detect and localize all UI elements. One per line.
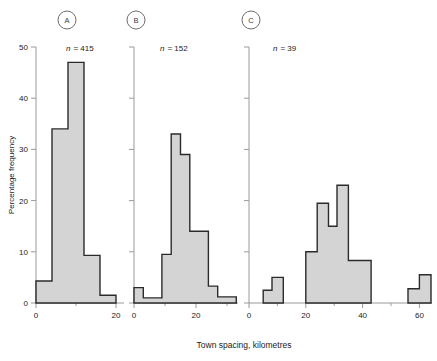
panel-a-letter: A xyxy=(64,16,69,25)
panel-b-letter: B xyxy=(133,16,138,25)
panel-b-histogram xyxy=(134,134,236,303)
panel-c-xlabel-0: 0 xyxy=(247,311,252,320)
panel-b: B 0 20 n= 152 xyxy=(127,11,238,320)
histogram-figure: A 50 40 30 20 10 0 Percentage frequency … xyxy=(0,0,437,361)
y-axis-title: Percentage frequency xyxy=(7,136,16,214)
panel-a-histogram xyxy=(36,62,116,303)
panel-b-xlabel-0: 0 xyxy=(132,311,137,320)
panel-a-ylabel-40: 40 xyxy=(19,94,28,103)
panel-c-xlabel-40: 40 xyxy=(358,311,367,320)
panel-c-histogram-left xyxy=(263,277,283,303)
panel-a-n-label: n= 415 xyxy=(66,44,94,53)
panel-c-xlabel-60: 60 xyxy=(415,311,424,320)
panel-c-histogram-main xyxy=(306,185,371,303)
panel-b-n-label: n= 152 xyxy=(160,44,188,53)
panel-b-xlabel-20: 20 xyxy=(192,311,201,320)
panel-a-ylabel-10: 10 xyxy=(19,248,28,257)
panel-a-ylabel-0: 0 xyxy=(24,299,29,308)
panel-a-ylabel-50: 50 xyxy=(19,43,28,52)
panel-c: C 0 20 40 60 n= 39 xyxy=(242,11,432,320)
x-axis-title: Town spacing, kilometres xyxy=(197,340,292,350)
panel-a-ylabel-20: 20 xyxy=(19,197,28,206)
panel-a: A 50 40 30 20 10 0 Percentage frequency … xyxy=(7,11,124,320)
panel-a-xlabel-20: 20 xyxy=(112,311,121,320)
figure-container: A 50 40 30 20 10 0 Percentage frequency … xyxy=(0,0,437,361)
panel-a-ylabel-30: 30 xyxy=(19,145,28,154)
panel-a-xlabel-0: 0 xyxy=(34,311,39,320)
panel-c-xlabel-20: 20 xyxy=(301,311,310,320)
panel-c-letter: C xyxy=(248,16,254,25)
panel-c-n-label: n= 39 xyxy=(273,44,297,53)
panel-c-histogram-right xyxy=(408,275,431,303)
